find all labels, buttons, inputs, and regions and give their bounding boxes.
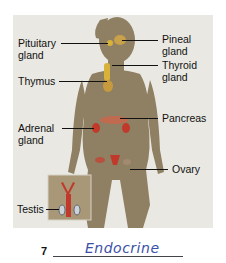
leader-line-testis [46,209,59,210]
handwritten-answer: Endocrine [85,240,160,256]
label-pituitary-line2: gland [18,49,56,61]
question-number: 7 [41,245,47,257]
label-adrenal-gland: Adrenal gland [18,122,54,146]
label-pancreas: Pancreas [162,112,206,124]
testis-inset [48,175,91,220]
label-thyroid-line2: gland [162,71,197,83]
leader-line-ovary [130,169,168,170]
label-testis: Testis [17,203,44,215]
label-pineal-line1: Pineal [162,33,191,45]
leader-line-pituitary [61,43,108,44]
label-thymus: Thymus [18,75,55,87]
label-adrenal-line1: Adrenal [18,122,54,134]
ovary-left-mark [95,157,105,163]
leader-line-thyroid [112,65,158,66]
label-thyroid-gland: Thyroid gland [162,59,197,83]
answer-line [53,256,183,257]
leader-line-adrenal [62,128,94,129]
leader-line-pancreas [120,118,158,119]
leader-line-pineal [122,40,158,41]
label-adrenal-line2: gland [18,134,54,146]
ovary-right-mark [123,159,131,165]
label-pineal-line2: gland [162,45,191,57]
leader-line-thymus [59,81,107,82]
label-thyroid-line1: Thyroid [162,59,197,71]
label-pineal-gland: Pineal gland [162,33,191,57]
label-pituitary-line1: Pituitary [18,37,56,49]
thyroid-gland-mark [104,63,110,81]
adrenal-gland-mark-right [122,123,130,133]
label-ovary: Ovary [172,163,200,175]
label-pituitary-gland: Pituitary gland [18,37,56,61]
